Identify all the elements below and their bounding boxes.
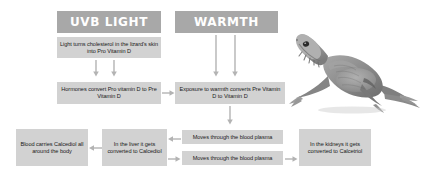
box-warmth-step1: Exposure to warmth converts Pre Vitamin …	[175, 82, 285, 104]
box-kidneys: In the kidneys it gets converted to Calc…	[299, 129, 371, 166]
header-uvb-light-label: UVB LIGHT	[70, 15, 148, 29]
header-warmth: WARMTH	[175, 11, 278, 33]
box-hormones: Hormones convert Pro vitamin D to Pre Vi…	[57, 82, 161, 104]
arrow-liver-to-plasma-lower	[168, 155, 181, 163]
arrow-warmth-down-right	[231, 35, 239, 77]
box-plasma-upper: Moves through the blood plasma	[182, 130, 283, 144]
arrow-uvb-down-left	[92, 60, 100, 77]
box-uvb-step1: Light turns cholesterol in the lizard's …	[57, 37, 161, 58]
box-plasma-lower: Moves through the blood plasma	[182, 151, 283, 165]
box-liver-text: In the liver it gets converted to Calced…	[104, 141, 165, 154]
box-blood-carries-text: Blood carries Calcediol all around the b…	[18, 141, 86, 154]
arrow-warmth-to-plasma	[226, 106, 234, 125]
box-blood-carries: Blood carries Calcediol all around the b…	[16, 129, 88, 166]
box-plasma-upper-text: Moves through the blood plasma	[193, 134, 273, 141]
box-kidneys-text: In the kidneys it gets converted to Calc…	[301, 141, 369, 154]
box-plasma-lower-text: Moves through the blood plasma	[193, 155, 273, 162]
box-uvb-step1-text: Light turns cholesterol in the lizard's …	[59, 41, 159, 54]
header-warmth-label: WARMTH	[194, 15, 259, 29]
header-uvb-light: UVB LIGHT	[57, 11, 161, 33]
arrow-plasma-lower-to-kidneys	[285, 155, 298, 163]
lizard-photo	[288, 22, 424, 118]
box-warmth-step1-text: Exposure to warmth converts Pre Vitamin …	[177, 86, 283, 99]
arrow-liver-to-blood	[89, 144, 102, 152]
arrow-plasma-upper-to-liver	[168, 135, 181, 143]
arrow-hormones-to-warmth	[162, 89, 175, 97]
box-hormones-text: Hormones convert Pro vitamin D to Pre Vi…	[59, 86, 159, 99]
box-liver: In the liver it gets converted to Calced…	[102, 129, 167, 166]
arrow-uvb-down-right	[110, 60, 118, 77]
diagram-canvas: UVB LIGHT WARMTH Light turns cholesterol…	[0, 0, 427, 178]
arrow-warmth-down-left	[212, 35, 220, 77]
